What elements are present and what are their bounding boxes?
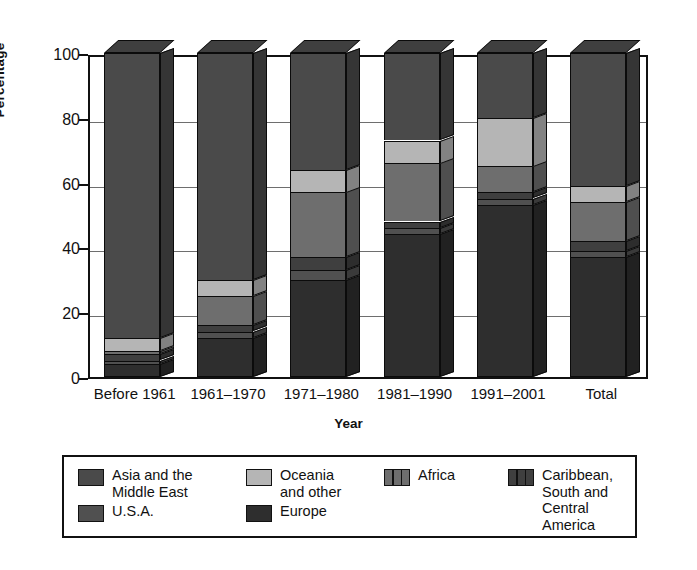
y-tick-label: 20	[34, 305, 80, 323]
bar-segment-side-face	[346, 187, 360, 257]
bar-segment[interactable]	[197, 332, 253, 338]
bar-segment-side-face	[440, 48, 454, 141]
bar-segment-side-face	[160, 48, 174, 338]
bar-segment[interactable]	[290, 280, 346, 377]
y-tick-label: 60	[34, 176, 80, 194]
bar-segment[interactable]	[104, 53, 160, 338]
legend-swatch	[246, 469, 272, 486]
bar-segment[interactable]	[290, 270, 346, 280]
bar-segment[interactable]	[197, 338, 253, 377]
bar-column[interactable]	[570, 53, 626, 377]
legend-swatch	[78, 469, 104, 486]
bar-segment[interactable]	[477, 205, 533, 377]
bar-segment[interactable]	[290, 53, 346, 170]
x-tick-label: Total	[555, 385, 648, 402]
bar-stack	[477, 53, 533, 377]
x-tick-label: 1981–1990	[368, 385, 461, 402]
bar-segment[interactable]	[197, 280, 253, 296]
y-tick-mark	[79, 313, 88, 315]
bar-segment[interactable]	[290, 192, 346, 257]
bar-segment-side-face	[533, 48, 547, 118]
legend-item[interactable]: Europe	[246, 503, 327, 522]
bar-column[interactable]	[384, 53, 440, 377]
legend-label: Africa	[418, 467, 455, 484]
bar-segment-side-face	[440, 158, 454, 221]
bar-segment-side-face	[626, 48, 640, 186]
bar-segment[interactable]	[384, 234, 440, 377]
bar-segment[interactable]	[570, 53, 626, 186]
bar-segment[interactable]	[384, 163, 440, 221]
y-tick-label: 80	[34, 111, 80, 129]
legend-swatch	[508, 469, 534, 486]
stacked-bar-chart: Percentage 100806040200 Before 19611961–…	[0, 0, 697, 570]
legend-item[interactable]: Caribbean, South and Central America	[508, 467, 631, 533]
bar-segment[interactable]	[384, 222, 440, 228]
y-tick-mark	[79, 378, 88, 380]
legend-swatch-divider	[401, 470, 403, 485]
bar-segment[interactable]	[290, 170, 346, 193]
bar-segment[interactable]	[104, 364, 160, 377]
y-axis-title: Percentage	[0, 10, 7, 150]
legend-swatch	[78, 505, 104, 522]
bar-segment[interactable]	[570, 257, 626, 377]
legend-item[interactable]: Asia and the Middle East	[78, 467, 193, 500]
bar-segment-side-face	[253, 333, 267, 377]
x-tick-label: 1971–1980	[275, 385, 368, 402]
bar-segment[interactable]	[477, 192, 533, 198]
legend-swatch	[246, 505, 272, 522]
bar-segment[interactable]	[290, 257, 346, 270]
x-tick-label: 1991–2001	[461, 385, 554, 402]
bar-segment[interactable]	[570, 251, 626, 257]
bar-column[interactable]	[197, 53, 253, 377]
bar-segment[interactable]	[384, 141, 440, 164]
y-tick-label: 100	[34, 46, 80, 64]
legend-label: Oceania and other	[280, 467, 341, 500]
chart-legend: Asia and the Middle EastOceania and othe…	[62, 455, 637, 538]
bar-segment[interactable]	[104, 338, 160, 351]
bar-column[interactable]	[290, 53, 346, 377]
legend-label: Asia and the Middle East	[112, 467, 193, 500]
bar-segment-side-face	[626, 197, 640, 241]
y-axis-tick-labels: 100806040200	[30, 55, 80, 379]
bar-segment[interactable]	[477, 166, 533, 192]
bar-segment[interactable]	[477, 118, 533, 167]
bar-segment[interactable]	[104, 354, 160, 360]
y-tick-label: 0	[34, 370, 80, 388]
bar-segment-side-face	[346, 48, 360, 170]
bar-segment[interactable]	[384, 53, 440, 140]
bar-segment[interactable]	[570, 186, 626, 202]
bar-segment[interactable]	[570, 241, 626, 251]
x-axis-title: Year	[0, 416, 697, 431]
bar-segment-side-face	[253, 48, 267, 280]
bar-stack	[197, 53, 253, 377]
bar-stack	[290, 53, 346, 377]
y-tick-mark	[79, 119, 88, 121]
bar-segment[interactable]	[197, 53, 253, 280]
legend-swatch-divider	[392, 470, 394, 485]
bar-column[interactable]	[104, 53, 160, 377]
bar-stack	[104, 53, 160, 377]
bar-stack	[570, 53, 626, 377]
bar-stack	[384, 53, 440, 377]
y-tick-mark	[79, 184, 88, 186]
bar-segment[interactable]	[384, 228, 440, 234]
legend-swatch-divider	[516, 470, 518, 485]
legend-label: U.S.A.	[112, 503, 154, 520]
bar-segment[interactable]	[477, 53, 533, 118]
y-tick-mark	[79, 54, 88, 56]
bar-segment[interactable]	[477, 199, 533, 205]
bar-column[interactable]	[477, 53, 533, 377]
legend-swatch-divider	[525, 470, 527, 485]
legend-item[interactable]: Oceania and other	[246, 467, 341, 500]
plot-area	[88, 55, 648, 379]
legend-label: Caribbean, South and Central America	[542, 467, 631, 533]
bar-segment[interactable]	[197, 296, 253, 325]
bar-segment[interactable]	[104, 361, 160, 364]
bar-segment[interactable]	[197, 325, 253, 331]
bar-segment-side-face	[533, 200, 547, 377]
bar-segment-side-face	[440, 229, 454, 377]
bar-segment[interactable]	[570, 202, 626, 241]
legend-item[interactable]: Africa	[384, 467, 455, 486]
bar-segment[interactable]	[104, 351, 160, 354]
legend-item[interactable]: U.S.A.	[78, 503, 154, 522]
